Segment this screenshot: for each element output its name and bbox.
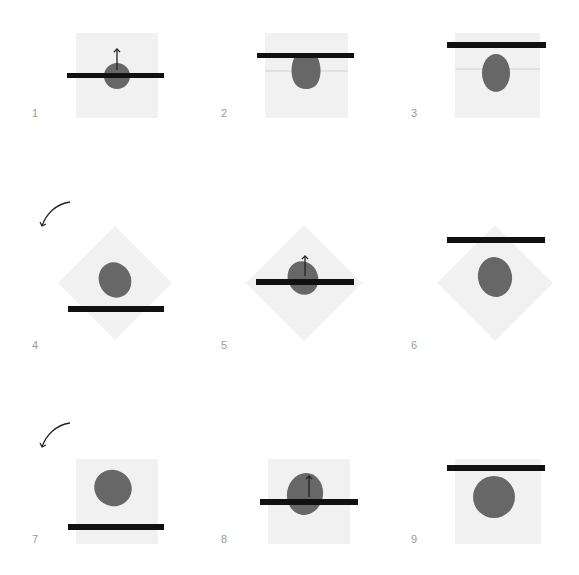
panel-5 [246,225,362,341]
horizontal-bar [256,279,354,285]
horizontal-bar [257,53,354,58]
panel-label-1: 1 [32,108,38,119]
panel-2 [257,33,354,118]
panel-4 [58,226,172,340]
panel-label-4: 4 [32,340,38,351]
round-blob [473,476,515,518]
horizontal-bar [447,237,545,243]
panel-1 [67,33,164,118]
panel-7 [68,459,164,544]
panel-label-7: 7 [32,534,38,545]
horizontal-bar [68,524,164,530]
panel-6 [437,225,553,341]
panel-9 [447,459,545,544]
horizontal-bar [68,306,164,312]
panel-label-3: 3 [411,108,417,119]
horizontal-bar [447,465,545,471]
panel-3 [447,33,546,118]
curved-arrow-rotate-left-icon [42,423,70,447]
panel-8 [260,459,358,544]
drop-blob [292,58,321,89]
curved-arrow-rotate-left-icon [42,202,70,226]
panel-label-9: 9 [411,534,417,545]
panel-label-8: 8 [221,534,227,545]
panel-label-5: 5 [221,340,227,351]
panel-label-2: 2 [221,108,227,119]
panel-label-6: 6 [411,340,417,351]
diagram-canvas: 1 2 3 4 5 6 7 8 9 [0,0,579,575]
egg-blob [482,54,510,92]
horizontal-bar [260,499,358,505]
horizontal-bar [67,73,164,78]
horizontal-bar [447,42,546,48]
